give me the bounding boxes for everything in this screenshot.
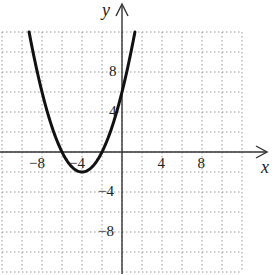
x-tick-label: 8 [198,156,206,171]
x-axis-label: x [261,158,269,176]
y-tick-label: −8 [98,224,114,239]
y-tick-label: 8 [109,64,117,79]
y-tick-label: 4 [109,104,117,119]
parabola-chart [0,0,275,275]
x-tick-label: 4 [158,156,166,171]
y-tick-label: −4 [98,184,114,199]
x-tick-label: −4 [69,156,85,171]
y-axis-label: y [102,1,110,19]
x-tick-label: −8 [29,156,45,171]
